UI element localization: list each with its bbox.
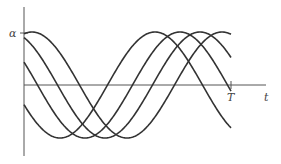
t-axis-label: t: [264, 91, 269, 104]
T-label: T: [227, 91, 236, 104]
alpha-label: α: [9, 27, 17, 40]
chart: α T t: [0, 0, 281, 164]
